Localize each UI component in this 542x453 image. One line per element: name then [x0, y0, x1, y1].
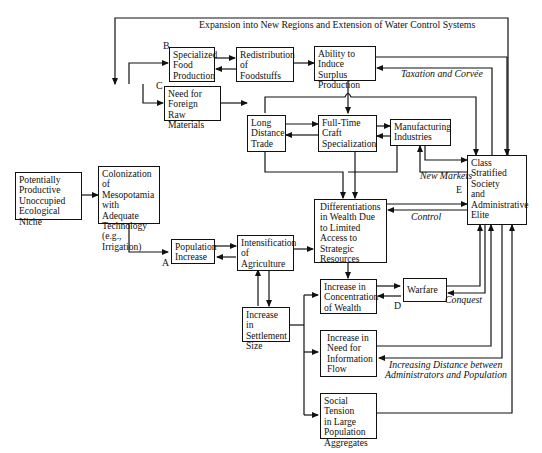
node-colonization: Colonization of Mesopotamia with Adequat… [98, 166, 160, 224]
label-taxation: Taxation and Corvée [401, 68, 483, 79]
marker-b: B [163, 40, 170, 51]
node-social-tension: Social Tension in Large Population Aggre… [320, 393, 377, 439]
marker-e: E [456, 184, 462, 195]
node-specialized-food: Specialized Food Production [169, 47, 215, 82]
node-craft: Full-Time Craft Specialization [318, 115, 377, 152]
node-intensification: Intensification of Agriculture [237, 235, 294, 271]
node-long-trade: Long Distance Trade [247, 115, 286, 152]
marker-a: A [162, 257, 169, 268]
node-manufacturing: Manufacturing Industries [390, 119, 451, 146]
label-new-markets: New Markets [420, 170, 472, 181]
node-surplus: Ability to Induce Surplus Production [314, 46, 376, 81]
node-population: Population Increase [171, 239, 215, 264]
flow-diagram: Potentially Productive Unoccupied Ecolog… [0, 0, 542, 453]
node-warfare: Warfare [403, 278, 447, 302]
node-niche: Potentially Productive Unoccupied Ecolog… [15, 172, 82, 220]
marker-c: C [156, 80, 163, 91]
node-differentiations: Differentiations in Wealth Due to Limite… [314, 199, 387, 263]
label-conquest: Conquest [445, 294, 482, 305]
node-information: Increase in Need for Information Flow [320, 330, 377, 377]
node-class-society: Class Stratified Society and Administrat… [467, 155, 527, 225]
label-distance-2: Administrators and Population [385, 369, 507, 380]
label-control: Control [411, 211, 441, 222]
label-expansion: Expansion into New Regions and Extension… [199, 19, 475, 30]
marker-d: D [394, 300, 401, 311]
node-concentration: Increase in Concentration of Wealth [320, 279, 377, 314]
node-foreign-raw: Need for Foreign Raw Materials [164, 86, 221, 121]
node-redistribution: Redistribution of Foodstuffs [236, 47, 294, 82]
node-settlement: Increase in Settlement Size [242, 307, 290, 342]
